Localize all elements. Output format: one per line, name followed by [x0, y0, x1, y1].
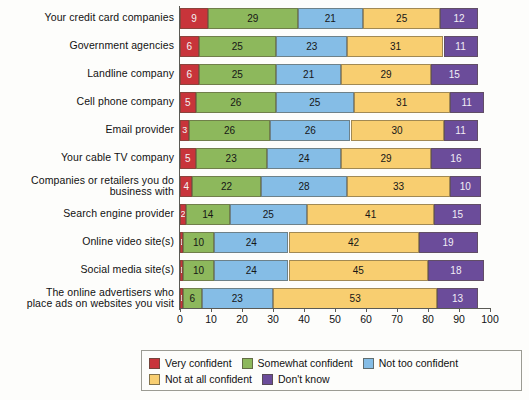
category-label: Your credit card companies: [0, 12, 180, 24]
x-tick: [490, 308, 491, 312]
bar-segment: 10: [183, 232, 214, 253]
bar-value-label: 25: [309, 96, 320, 107]
category-label: The online advertisers whoplace ads on w…: [0, 287, 180, 310]
category-label-line1: The online advertisers who: [46, 286, 174, 298]
legend-row-2: Not at all confidentDon't know: [149, 371, 515, 387]
bar-value-label: 11: [455, 40, 465, 51]
bar-value-label: 10: [193, 264, 204, 275]
bar-segment: 23: [202, 288, 273, 309]
x-tick-label: 0: [177, 313, 183, 325]
x-tick-label: 80: [422, 313, 434, 325]
x-tick-label: 30: [267, 313, 279, 325]
bar-segment: 30: [351, 120, 444, 141]
category-label: Search engine provider: [0, 208, 180, 220]
bar-value-label: 25: [396, 12, 407, 23]
bar-value-label: 11: [462, 96, 472, 107]
bar-value-label: 9: [191, 12, 197, 23]
x-tick-label: 60: [360, 313, 372, 325]
bar-value-label: 3: [182, 125, 187, 135]
category-label-line1: Social media site(s): [80, 263, 174, 275]
bar-value-label: 25: [232, 68, 243, 79]
legend-row-1: Very confidentSomewhat confidentNot too …: [149, 355, 515, 371]
bar-value-label: 16: [450, 152, 461, 163]
legend-item[interactable]: Very confident: [149, 357, 232, 369]
bar-row: Your cable TV company523242916: [0, 144, 529, 172]
legend-swatch: [262, 374, 273, 385]
bar-value-label: 31: [390, 40, 401, 51]
bar-segment: 16: [431, 148, 481, 169]
bar-segment: 6: [180, 36, 199, 57]
x-tick-label: 50: [329, 313, 341, 325]
bar-segment: 25: [230, 204, 308, 225]
stacked-bar: 526253111: [180, 92, 490, 113]
category-label-line1: Landline company: [87, 67, 174, 79]
bar-value-label: 29: [247, 12, 258, 23]
stacked-bar: 625212915: [180, 64, 490, 85]
bar-segment: 12: [440, 8, 477, 29]
category-label-line1: Search engine provider: [63, 207, 174, 219]
x-tick-label: 20: [236, 313, 248, 325]
x-tick-label: 100: [481, 313, 499, 325]
x-tick: [211, 308, 212, 312]
legend-item[interactable]: Not at all confident: [149, 373, 252, 385]
category-label: Landline company: [0, 68, 180, 80]
bar-segment: 26: [189, 120, 270, 141]
bar-segment: 26: [270, 120, 351, 141]
x-tick: [180, 308, 181, 312]
x-tick-label: 90: [453, 313, 465, 325]
category-label: Your cable TV company: [0, 152, 180, 164]
legend-label: Somewhat confident: [258, 357, 353, 369]
bar-segment: 6: [180, 64, 199, 85]
bar-segment: 25: [363, 8, 441, 29]
x-tick-label: 10: [205, 313, 217, 325]
bar-value-label: 24: [246, 236, 257, 247]
stacked-bar: 625233111: [180, 36, 490, 57]
bar-segment: 41: [307, 204, 434, 225]
bar-segment: 18: [428, 260, 484, 281]
bar-segment: 21: [298, 8, 363, 29]
bar-row: Email provider326263011: [0, 116, 529, 144]
bar-segment: 11: [444, 36, 478, 57]
bar-value-label: 6: [190, 292, 196, 303]
category-label-line1: Companies or retailers you do: [31, 174, 174, 186]
bar-segment: 28: [261, 176, 348, 197]
stacked-bar: 110244219: [180, 232, 490, 253]
bar-row: Search engine provider214254115: [0, 200, 529, 228]
bar-value-label: 15: [449, 68, 460, 79]
bar-segment: 13: [437, 288, 477, 309]
legend-swatch: [149, 358, 160, 369]
bar-value-label: 5: [185, 152, 191, 163]
bar-value-label: 21: [325, 12, 336, 23]
bar-value-label: 15: [452, 208, 463, 219]
legend-swatch: [363, 358, 374, 369]
stacked-bar: 110244518: [180, 260, 490, 281]
legend-label: Not at all confident: [165, 373, 252, 385]
bar-value-label: 23: [232, 292, 243, 303]
bar-row: Social media site(s)110244518: [0, 256, 529, 284]
bar-value-label: 28: [298, 180, 309, 191]
category-label: Government agencies: [0, 40, 180, 52]
bar-segment: 4: [180, 176, 192, 197]
bar-value-label: 18: [450, 264, 461, 275]
x-tick: [428, 308, 429, 312]
bar-segment: 29: [341, 64, 431, 85]
bar-segment: 5: [180, 148, 196, 169]
x-tick: [242, 308, 243, 312]
bar-row: Online video site(s)110244219: [0, 228, 529, 256]
bar-segment: 21: [276, 64, 341, 85]
bar-value-label: 10: [460, 180, 471, 191]
bar-value-label: 6: [187, 68, 193, 79]
bar-segment: 25: [276, 92, 354, 113]
bar-value-label: 25: [263, 208, 274, 219]
legend-item[interactable]: Don't know: [262, 373, 330, 385]
bar-segment: 14: [186, 204, 229, 225]
legend-item[interactable]: Not too confident: [363, 357, 458, 369]
bar-row: Cell phone company526253111: [0, 88, 529, 116]
category-label-line2: business with: [0, 186, 174, 198]
bar-value-label: 26: [224, 124, 235, 135]
stacked-bar-chart: Your credit card companies929212512Gover…: [0, 0, 529, 400]
bar-segment: 29: [341, 148, 431, 169]
legend-item[interactable]: Somewhat confident: [242, 357, 353, 369]
bar-segment: 3: [180, 120, 189, 141]
bar-value-label: 30: [391, 124, 402, 135]
